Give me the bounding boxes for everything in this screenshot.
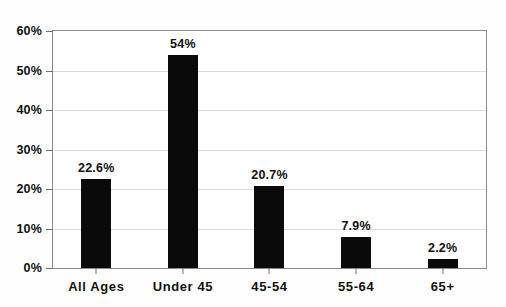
bar-group: 54%Under 45 <box>140 31 227 268</box>
x-axis-tick-label: 55-64 <box>338 279 374 294</box>
y-axis-tick <box>46 189 53 190</box>
y-axis-tick-label: 30% <box>16 143 42 157</box>
bar[interactable] <box>254 186 284 268</box>
y-axis-tick <box>46 31 53 32</box>
y-axis-tick-label: 20% <box>16 182 42 196</box>
bar[interactable] <box>168 55 198 268</box>
bar-value-label: 7.9% <box>341 219 370 233</box>
bar-group: 22.6%All Ages <box>53 31 140 268</box>
y-axis-tick-label: 50% <box>16 64 42 78</box>
y-axis-tick <box>46 229 53 230</box>
bar[interactable] <box>428 259 458 268</box>
y-axis-tick-label: 0% <box>24 261 42 275</box>
y-axis-tick <box>46 71 53 72</box>
x-axis-tick <box>182 268 183 274</box>
x-axis-tick-label: All Ages <box>68 279 124 294</box>
bar-value-label: 22.6% <box>78 161 114 175</box>
bar-group: 2.2%65+ <box>399 31 486 268</box>
x-axis-tick <box>96 268 97 274</box>
y-axis-tick <box>46 150 53 151</box>
bar-group: 20.7%45-54 <box>226 31 313 268</box>
bar[interactable] <box>81 179 111 268</box>
bar-group: 7.9%55-64 <box>313 31 400 268</box>
y-axis-tick-label: 10% <box>16 222 42 236</box>
x-axis-tick <box>356 268 357 274</box>
plot-area: 0%10%20%30%40%50%60% 22.6%All Ages54%Und… <box>52 30 487 269</box>
bar-value-label: 20.7% <box>251 168 287 182</box>
y-axis-tick-label: 40% <box>16 103 42 117</box>
x-axis-tick <box>269 268 270 274</box>
bar-value-label: 54% <box>170 37 196 51</box>
bar-chart: 0%10%20%30%40%50%60% 22.6%All Ages54%Und… <box>0 0 506 307</box>
x-axis-tick-label: 45-54 <box>251 279 287 294</box>
bar[interactable] <box>341 237 371 268</box>
y-axis-tick <box>46 268 53 269</box>
y-axis-tick-label: 60% <box>16 24 42 38</box>
x-axis-tick <box>442 268 443 274</box>
bar-value-label: 2.2% <box>428 241 457 255</box>
y-axis-tick <box>46 110 53 111</box>
x-axis-tick-label: 65+ <box>431 279 455 294</box>
x-axis-tick-label: Under 45 <box>153 279 213 294</box>
